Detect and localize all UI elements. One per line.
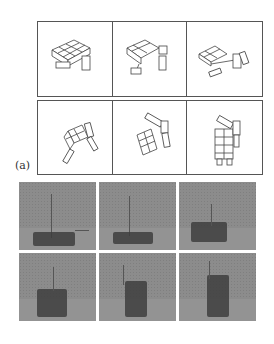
antenna [209,261,210,279]
robot-photo [113,232,153,244]
drawing-row-1 [37,21,263,97]
robot-step3-drawing [187,22,261,96]
arm [75,230,89,231]
robot-step5-drawing [113,101,187,174]
antenna [53,267,54,291]
drawing-panel-6 [186,101,260,174]
photo-row-2 [19,253,256,321]
robot-flat-drawing [38,22,112,96]
photo-panel-2 [99,182,176,250]
antenna [211,204,212,226]
drawing-row-2 [37,100,263,175]
photo-panel-3 [179,182,256,250]
photo-panel-6 [179,253,256,321]
photo-panel-1 [19,182,96,250]
photo-panel-5 [99,253,176,321]
robot-photo [207,275,229,317]
drawing-panel-1 [38,22,112,96]
subfigure-label: (a) [15,159,30,172]
drawing-panel-2 [112,22,186,96]
drawing-panel-3 [186,22,260,96]
robot-photo [125,281,147,317]
antenna [129,196,130,236]
antenna [123,265,124,285]
robot-step4-drawing [38,101,112,174]
photo-panel-4 [19,253,96,321]
drawing-panel-4 [38,101,112,174]
robot-upright-drawing [187,101,261,174]
robot-step2-drawing [113,22,187,96]
robot-photo [33,232,75,246]
photo-row-1 [19,182,256,250]
robot-photo [191,222,227,242]
drawing-panel-5 [112,101,186,174]
robot-photo [37,289,67,317]
